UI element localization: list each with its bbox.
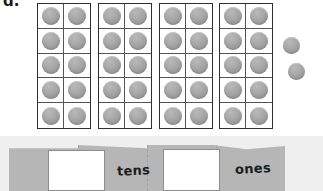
frame-cell[interactable]	[160, 78, 186, 103]
frame-cell[interactable]	[125, 29, 151, 54]
frame-cell[interactable]	[246, 78, 272, 103]
counter[interactable]	[103, 56, 121, 74]
counter[interactable]	[224, 32, 242, 50]
counter[interactable]	[250, 81, 268, 99]
counter[interactable]	[190, 81, 208, 99]
counter[interactable]	[68, 107, 86, 125]
counter[interactable]	[42, 81, 60, 99]
frame-cell[interactable]	[64, 29, 90, 54]
ten-frame-4[interactable]	[219, 3, 273, 129]
frame-cell[interactable]	[220, 4, 246, 29]
counter[interactable]	[190, 107, 208, 125]
counter[interactable]	[224, 107, 242, 125]
frame-cell[interactable]	[99, 78, 125, 103]
frame-cell[interactable]	[220, 103, 246, 128]
frame-cell[interactable]	[99, 54, 125, 79]
frame-cell[interactable]	[38, 29, 64, 54]
ten-frames-work-area: d.	[0, 0, 323, 136]
frame-cell[interactable]	[64, 54, 90, 79]
frame-cell[interactable]	[125, 78, 151, 103]
counter[interactable]	[164, 56, 182, 74]
frame-cell[interactable]	[125, 54, 151, 79]
frame-cell[interactable]	[186, 4, 212, 29]
counter[interactable]	[129, 81, 147, 99]
counter[interactable]	[190, 32, 208, 50]
counter[interactable]	[190, 56, 208, 74]
frame-cell[interactable]	[125, 4, 151, 29]
frame-cell[interactable]	[38, 54, 64, 79]
counter[interactable]	[164, 7, 182, 25]
tens-answer-box[interactable]	[48, 150, 105, 191]
loose-counter-2[interactable]	[288, 63, 305, 80]
frame-cell[interactable]	[160, 54, 186, 79]
frame-cell[interactable]	[160, 29, 186, 54]
counter[interactable]	[103, 107, 121, 125]
counter[interactable]	[164, 81, 182, 99]
frame-cell[interactable]	[220, 54, 246, 79]
loose-counter-1[interactable]	[283, 37, 300, 54]
frame-cell[interactable]	[64, 4, 90, 29]
counter[interactable]	[42, 32, 60, 50]
counter[interactable]	[129, 32, 147, 50]
counter[interactable]	[103, 7, 121, 25]
counter[interactable]	[250, 7, 268, 25]
counter[interactable]	[224, 56, 242, 74]
counter[interactable]	[129, 56, 147, 74]
counter[interactable]	[164, 32, 182, 50]
counter[interactable]	[42, 56, 60, 74]
frame-cell[interactable]	[246, 103, 272, 128]
frame-cell[interactable]	[99, 4, 125, 29]
counter[interactable]	[68, 81, 86, 99]
frame-cell[interactable]	[246, 4, 272, 29]
worksheet-page: d. tens ones	[0, 0, 323, 191]
counter[interactable]	[224, 81, 242, 99]
tens-label: tens	[117, 162, 151, 178]
counter[interactable]	[68, 32, 86, 50]
counter[interactable]	[250, 56, 268, 74]
frame-cell[interactable]	[220, 29, 246, 54]
frame-cell[interactable]	[220, 78, 246, 103]
counter[interactable]	[190, 7, 208, 25]
frame-cell[interactable]	[38, 4, 64, 29]
frame-cell[interactable]	[246, 29, 272, 54]
frame-cell[interactable]	[38, 78, 64, 103]
frame-cell[interactable]	[38, 103, 64, 128]
counter[interactable]	[103, 32, 121, 50]
frame-cell[interactable]	[186, 29, 212, 54]
counter[interactable]	[250, 107, 268, 125]
place-value-mat	[0, 136, 323, 191]
frame-cell[interactable]	[64, 78, 90, 103]
frame-cell[interactable]	[186, 78, 212, 103]
counter[interactable]	[129, 107, 147, 125]
frame-cell[interactable]	[125, 103, 151, 128]
counter[interactable]	[129, 7, 147, 25]
ones-answer-box[interactable]	[163, 149, 220, 191]
frame-cell[interactable]	[64, 103, 90, 128]
ones-label: ones	[235, 160, 272, 177]
counter[interactable]	[103, 81, 121, 99]
frame-cell[interactable]	[99, 29, 125, 54]
counter[interactable]	[68, 7, 86, 25]
counter[interactable]	[42, 7, 60, 25]
counter[interactable]	[224, 7, 242, 25]
ten-frame-3[interactable]	[159, 3, 213, 129]
ten-frame-1[interactable]	[37, 3, 91, 129]
frame-cell[interactable]	[186, 54, 212, 79]
counter[interactable]	[68, 56, 86, 74]
problem-label: d.	[3, 0, 19, 9]
counter[interactable]	[42, 107, 60, 125]
frame-cell[interactable]	[246, 54, 272, 79]
ten-frame-2[interactable]	[98, 3, 152, 129]
counter[interactable]	[164, 107, 182, 125]
frame-cell[interactable]	[160, 4, 186, 29]
counter[interactable]	[250, 32, 268, 50]
frame-cell[interactable]	[99, 103, 125, 128]
frame-cell[interactable]	[160, 103, 186, 128]
frame-cell[interactable]	[186, 103, 212, 128]
